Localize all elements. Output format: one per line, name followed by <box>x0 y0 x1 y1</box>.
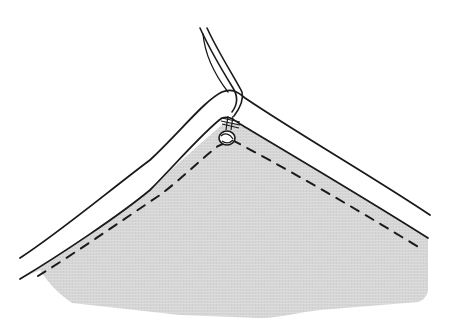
sewing-illustration <box>0 0 450 325</box>
illustration-canvas <box>0 0 450 325</box>
